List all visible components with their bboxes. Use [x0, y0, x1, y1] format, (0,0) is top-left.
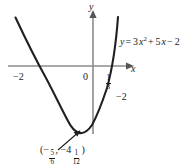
parabola-curve — [16, 17, 119, 133]
vertex-y-denominator: 12 — [72, 159, 81, 165]
y-axis-label: y — [89, 2, 93, 12]
y-intercept-label: −2 — [116, 92, 127, 102]
equation-coef-linear: 5 — [155, 36, 162, 47]
equation-plus: + — [147, 36, 155, 47]
equation-constant: 2 — [174, 36, 181, 47]
parabola-figure: y x −2 0 13 −2 y=3x2+5x−2 (−56, −4112) — [0, 0, 195, 165]
vertex-x-sign: − — [43, 144, 49, 155]
y-axis — [89, 10, 96, 134]
origin-label: 0 — [83, 72, 88, 82]
vertex-label: (−56, −4112) — [40, 145, 85, 165]
vertex-y-whole: 4 — [66, 144, 71, 155]
x-intercept-right-label: 13 — [105, 70, 112, 91]
equation-label: y=3x2+5x−2 — [120, 36, 181, 47]
x-axis — [8, 62, 134, 69]
equation-minus: − — [166, 36, 174, 47]
x-intercept-left-label: −2 — [13, 72, 24, 82]
equation-equals: = — [124, 36, 132, 47]
x-axis-label: x — [131, 64, 135, 74]
vertex-x-denominator: 6 — [49, 159, 55, 165]
vertex-close-paren: ) — [81, 144, 84, 155]
x-intercept-right-denominator: 3 — [106, 84, 112, 91]
graph-canvas — [0, 0, 195, 165]
vertex-comma: , — [56, 144, 59, 155]
